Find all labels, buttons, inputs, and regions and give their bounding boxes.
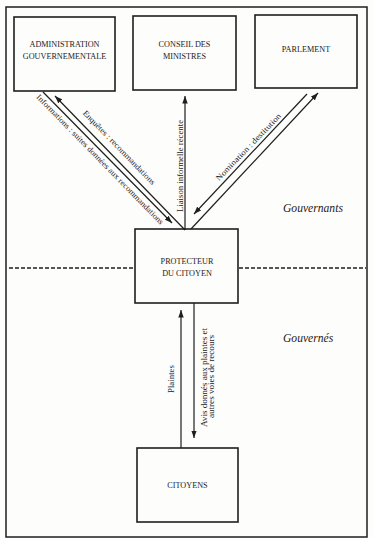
box-citoyens: CITOYENS [137, 448, 238, 522]
box-protecteur-du-citoyen: PROTECTEUR DU CITOYEN [135, 229, 238, 303]
box-parlement: PARLEMENT [255, 15, 357, 88]
box-protecteur-label-line2: DU CITOYEN [162, 269, 212, 278]
box-citoyens-label: CITOYENS [167, 481, 208, 490]
box-administration: ADMINISTRATION GOUVERNEMENTALE [14, 17, 115, 91]
label-avis-line2: autres voies de recours [207, 335, 216, 418]
diagram: ADMINISTRATION GOUVERNEMENTALE CONSEIL D… [0, 0, 374, 538]
label-plaintes: Plaintes [167, 365, 176, 393]
box-protecteur-border [135, 229, 238, 303]
label-liaison-informelle: Liaison informelle récente [176, 120, 185, 212]
box-administration-label-line2: GOUVERNEMENTALE [23, 52, 106, 61]
zone-label-gouvernants: Gouvernants [283, 202, 343, 215]
box-protecteur-label-line1: PROTECTEUR [161, 257, 214, 266]
box-conseil-des-ministres: CONSEIL DES MINISTRES [133, 16, 236, 90]
zone-label-gouvernes: Gouvernés [283, 332, 334, 345]
diagram-svg: ADMINISTRATION GOUVERNEMENTALE CONSEIL D… [0, 0, 374, 538]
arrow-nomination-down [194, 94, 307, 214]
box-parlement-label: PARLEMENT [282, 45, 330, 54]
label-nomination-destitution: Nomination : destitution [214, 112, 283, 183]
box-conseil-label-line2: MINISTRES [163, 52, 207, 61]
label-informations-suites: Informations : suites données aux recomm… [35, 93, 166, 227]
arrow-informations [43, 92, 172, 223]
box-conseil-label-line1: CONSEIL DES [159, 40, 211, 49]
arrow-enquetes [55, 96, 185, 230]
box-administration-label-line1: ADMINISTRATION [29, 40, 99, 49]
